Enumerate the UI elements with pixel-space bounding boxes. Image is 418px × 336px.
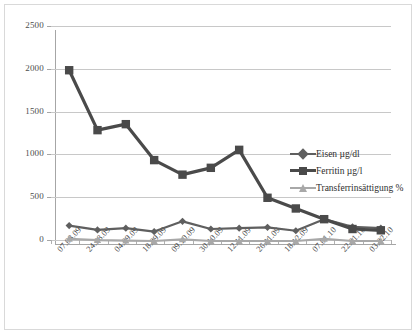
y-tick-label: 500 [2, 192, 44, 201]
y-tick-mark [47, 112, 51, 113]
data-point-marker [321, 216, 328, 223]
gridline [51, 26, 391, 27]
x-tick-mark [306, 240, 307, 244]
x-tick-mark [363, 240, 364, 244]
data-point-marker [93, 126, 101, 134]
data-point-marker [292, 204, 300, 212]
x-tick-mark [136, 240, 137, 244]
x-tick-mark [334, 240, 335, 244]
data-point-marker [178, 170, 186, 178]
gridline [51, 112, 391, 113]
x-tick-mark [51, 240, 52, 244]
data-point-marker [207, 164, 215, 172]
y-axis-line [55, 30, 56, 245]
x-tick-mark [193, 240, 194, 244]
data-point-marker [150, 156, 158, 164]
data-point-marker [320, 215, 328, 223]
legend-label-eisen: Eisen µg/dl [316, 149, 360, 159]
x-tick-mark [108, 240, 109, 244]
legend-key-eisen-icon [290, 148, 316, 160]
legend-key-ferritin-icon [290, 165, 316, 177]
x-tick-mark [79, 240, 80, 244]
x-tick-mark [249, 240, 250, 244]
legend: Eisen µg/dl Ferritin µg/l Transferrinsät… [290, 145, 418, 196]
legend-key-transferrin-icon [290, 182, 316, 194]
y-tick-label: 0 [2, 235, 44, 244]
data-point-marker [179, 218, 186, 225]
data-point-marker [65, 66, 73, 74]
y-tick-mark [47, 69, 51, 70]
gridline [51, 69, 391, 70]
y-tick-label: 2500 [2, 21, 44, 30]
x-tick-mark [391, 240, 392, 244]
legend-item-transferrin[interactable]: Transferrinsättigung % [290, 179, 418, 196]
y-tick-label: 1000 [2, 149, 44, 158]
y-tick-label: 1500 [2, 107, 44, 116]
legend-item-eisen[interactable]: Eisen µg/dl [290, 145, 418, 162]
data-point-marker [235, 146, 243, 154]
x-tick-mark [278, 240, 279, 244]
y-tick-mark [47, 154, 51, 155]
legend-label-transferrin: Transferrinsättigung % [316, 183, 404, 193]
data-point-marker [122, 120, 130, 128]
gridline [51, 197, 391, 198]
chart-frame: 05001000150020002500 07.08.0924.08.0904.… [4, 4, 412, 330]
x-tick-mark [164, 240, 165, 244]
x-tick-mark [221, 240, 222, 244]
legend-item-ferritin[interactable]: Ferritin µg/l [290, 162, 418, 179]
y-tick-mark [47, 197, 51, 198]
y-tick-mark [47, 26, 51, 27]
legend-label-ferritin: Ferritin µg/l [316, 166, 362, 176]
y-tick-label: 2000 [2, 64, 44, 73]
